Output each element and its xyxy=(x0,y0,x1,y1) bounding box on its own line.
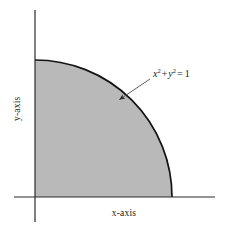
x-axis-label: x-axis xyxy=(94,209,154,219)
shaded-quarter-disk-region xyxy=(35,60,172,197)
curve-equation-label: x2+y2=1 xyxy=(153,69,191,79)
annotation-leader-line xyxy=(120,79,151,100)
figure-container: y-axis x-axis x2+y2=1 xyxy=(0,0,240,243)
y-axis-label: y-axis xyxy=(13,86,23,132)
equation-value: 1 xyxy=(184,68,191,79)
figure-canvas xyxy=(0,0,240,243)
equation-equals-operator: = xyxy=(176,68,184,79)
